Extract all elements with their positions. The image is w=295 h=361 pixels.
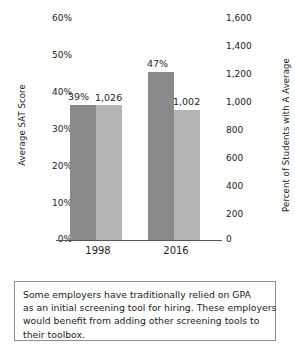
right-tick-1400: 1,400 xyxy=(226,41,252,51)
category-label-2016: 2016 xyxy=(148,245,204,256)
right-axis-title: Percent of Students with A Average xyxy=(281,55,291,215)
right-axis-ticks: 1,600 1,400 1,200 1,000 800 600 400 200 … xyxy=(226,0,270,270)
x-axis-category-labels: 1998 2016 xyxy=(62,245,212,261)
bar-label-2016-percent: 47% xyxy=(147,58,168,69)
chart-plot-area: Average SAT Score Percent of Students wi… xyxy=(0,0,295,270)
right-tick-200: 200 xyxy=(226,209,243,219)
left-axis-title: Average SAT Score xyxy=(17,65,27,185)
right-tick-0: 0 xyxy=(226,234,232,244)
bar-2016-percent[interactable] xyxy=(148,72,174,240)
category-label-1998: 1998 xyxy=(70,245,126,256)
right-tick-1200: 1,200 xyxy=(226,69,252,79)
caption-line-3: would benefit from adding other screenin… xyxy=(23,314,267,327)
dual-axis-bar-chart-figure: Average SAT Score Percent of Students wi… xyxy=(0,0,295,361)
bar-1998-percent[interactable] xyxy=(70,105,96,240)
bar-1998-sat[interactable] xyxy=(96,105,122,240)
right-tick-600: 600 xyxy=(226,153,243,163)
bar-label-1998-percent: 39% xyxy=(68,91,89,102)
bar-group-1998: 39% 1,026 xyxy=(70,18,126,240)
caption-line-2: as an initial screening tool for hiring.… xyxy=(23,301,267,314)
caption-line-1: Some employers have traditionally relied… xyxy=(23,288,267,301)
bar-2016-sat[interactable] xyxy=(174,110,200,240)
caption-line-4: their toolbox. xyxy=(23,328,267,341)
x-axis-line xyxy=(56,240,222,241)
caption-box: Some employers have traditionally relied… xyxy=(14,281,276,341)
bars-container: 39% 1,026 47% 1,002 xyxy=(62,18,212,240)
x-axis-tick-mark xyxy=(71,236,72,240)
bar-label-1998-sat: 1,026 xyxy=(95,92,122,103)
right-tick-1000: 1,000 xyxy=(226,97,252,107)
right-tick-1600: 1,600 xyxy=(226,13,252,23)
right-tick-800: 800 xyxy=(226,125,243,135)
right-tick-400: 400 xyxy=(226,181,243,191)
bar-label-2016-sat: 1,002 xyxy=(173,96,200,107)
bar-group-2016: 47% 1,002 xyxy=(148,18,204,240)
